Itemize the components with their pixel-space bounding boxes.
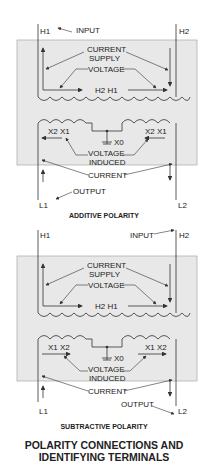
- subtractive-caption: SUBTRACTIVE POLARITY: [60, 423, 147, 430]
- figure-title-line1: POLARITY CONNECTIONS AND: [0, 439, 208, 451]
- voltage-label: VOLTAGE: [88, 281, 125, 290]
- voltage-induced-label-2: INDUCED: [89, 374, 126, 383]
- current-supply-label: CURRENT: [87, 261, 126, 270]
- input-label: INPUT: [76, 26, 100, 35]
- current-supply-label: CURRENT: [87, 45, 126, 54]
- output-label: OUTPUT: [121, 400, 154, 409]
- x0-terminal: X0: [114, 354, 124, 363]
- l2-terminal: L2: [178, 201, 187, 210]
- x0-terminal: X0: [114, 138, 124, 147]
- current-supply-label-2: SUPPLY: [89, 270, 121, 279]
- current-label: CURRENT: [88, 387, 127, 396]
- h2-terminal: H2: [179, 27, 190, 36]
- current-label: CURRENT: [88, 171, 127, 180]
- x-left-terminals: X2 X1: [48, 127, 70, 136]
- primary-terminals-label: H2 H1: [95, 86, 118, 95]
- polarity-diagram: H1 INPUT H2 CURRENT SUPPLY VOLTAGE H2 H1…: [0, 0, 208, 469]
- additive-caption: ADDITIVE POLARITY: [69, 212, 139, 219]
- figure-title-line2: IDENTIFYING TERMINALS: [0, 451, 208, 463]
- voltage-induced-label: VOLTAGE: [88, 365, 125, 374]
- l1-terminal: L1: [39, 407, 48, 416]
- l2-terminal: L2: [178, 407, 187, 416]
- voltage-label: VOLTAGE: [88, 65, 125, 74]
- current-supply-label-2: SUPPLY: [89, 54, 121, 63]
- h1-terminal: H1: [40, 231, 51, 240]
- x-left-terminals: X1 X2: [48, 343, 70, 352]
- h1-terminal: H1: [40, 27, 51, 36]
- output-label: OUTPUT: [73, 187, 106, 196]
- subtractive-diagram: H1 INPUT H2 CURRENT SUPPLY VOLTAGE H2 H1…: [17, 230, 197, 430]
- input-label: INPUT: [130, 231, 154, 240]
- l1-terminal: L1: [39, 201, 48, 210]
- primary-terminals-label: H2 H1: [95, 302, 118, 311]
- x-right-terminals: X1 X2: [145, 343, 167, 352]
- voltage-induced-label-2: INDUCED: [89, 158, 126, 167]
- additive-diagram: H1 INPUT H2 CURRENT SUPPLY VOLTAGE H2 H1…: [17, 24, 197, 219]
- h2-terminal: H2: [179, 231, 190, 240]
- voltage-induced-label: VOLTAGE: [88, 149, 125, 158]
- x-right-terminals: X2 X1: [145, 127, 167, 136]
